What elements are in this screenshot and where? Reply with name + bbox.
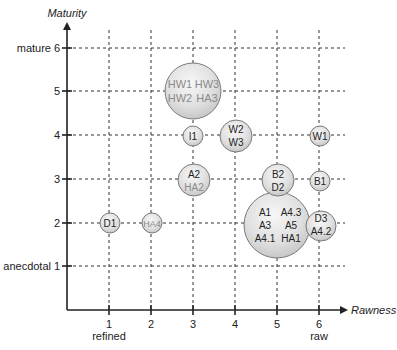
bubble-a-group: A1 A4.3 A3 A5 A4.1 HA1 bbox=[244, 192, 310, 258]
svg-text:W2: W2 bbox=[229, 124, 244, 135]
svg-text:A3: A3 bbox=[259, 220, 272, 231]
svg-text:HW3: HW3 bbox=[195, 78, 219, 90]
bubble-i1: I1 bbox=[183, 126, 203, 146]
bubble-b1: B1 bbox=[310, 171, 330, 191]
svg-text:HA4: HA4 bbox=[143, 219, 161, 229]
y-tick-2: 2 bbox=[54, 217, 60, 229]
svg-text:HA1: HA1 bbox=[281, 233, 301, 244]
svg-text:B1: B1 bbox=[314, 176, 327, 187]
svg-text:HA2: HA2 bbox=[184, 182, 204, 193]
bubble-d1: D1 bbox=[100, 213, 120, 233]
bubble-a2-ha2: A2 HA2 bbox=[178, 164, 210, 196]
y-tick-1: 1 bbox=[54, 260, 60, 272]
x-tick-2: 2 bbox=[148, 318, 154, 330]
svg-text:W3: W3 bbox=[229, 137, 244, 148]
svg-text:A4.2: A4.2 bbox=[311, 226, 332, 237]
x-axis-title: Rawness bbox=[351, 304, 397, 316]
y-label-anecdotal: anecdotal bbox=[3, 260, 51, 272]
svg-text:B2: B2 bbox=[272, 169, 285, 180]
y-label-mature: mature bbox=[17, 42, 51, 54]
svg-text:A4.1: A4.1 bbox=[255, 233, 276, 244]
x-tick-labels: 1 2 3 4 5 6 refined raw bbox=[92, 318, 328, 342]
bubble-w2-w3: W2 W3 bbox=[220, 120, 252, 152]
x-label-raw: raw bbox=[310, 330, 328, 342]
svg-text:HA3: HA3 bbox=[196, 92, 217, 104]
bubble-hw: HW1 HW3 HW2 HA3 bbox=[165, 63, 221, 119]
bubble-b2-d2: B2 D2 bbox=[262, 164, 294, 196]
svg-text:A2: A2 bbox=[188, 169, 201, 180]
svg-text:A5: A5 bbox=[285, 220, 298, 231]
svg-text:A4.3: A4.3 bbox=[281, 207, 302, 218]
bubble-ha4: HA4 bbox=[142, 213, 162, 233]
svg-text:HW1: HW1 bbox=[168, 78, 192, 90]
x-tick-6: 6 bbox=[316, 318, 322, 330]
y-tick-4: 4 bbox=[54, 129, 60, 141]
svg-text:HW2: HW2 bbox=[168, 92, 192, 104]
x-axis-arrow-icon bbox=[340, 306, 348, 314]
svg-text:D3: D3 bbox=[315, 213, 328, 224]
y-axis-title: Maturity bbox=[47, 7, 88, 19]
y-tick-labels: 6 5 4 3 2 1 mature anecdotal bbox=[3, 42, 60, 272]
y-tick-3: 3 bbox=[54, 173, 60, 185]
y-tick-6: 6 bbox=[54, 42, 60, 54]
x-label-refined: refined bbox=[92, 330, 126, 342]
bubble-d3-a4-2: D3 A4.2 bbox=[306, 211, 336, 241]
x-tick-5: 5 bbox=[274, 318, 280, 330]
svg-text:I1: I1 bbox=[189, 131, 198, 142]
svg-text:A1: A1 bbox=[259, 207, 272, 218]
svg-text:D1: D1 bbox=[104, 218, 117, 229]
x-tick-3: 3 bbox=[190, 318, 196, 330]
x-tick-4: 4 bbox=[232, 318, 238, 330]
maturity-rawness-chart: Maturity Rawness 6 5 4 3 2 1 mature anec… bbox=[0, 0, 397, 350]
bubble-w1: W1 bbox=[310, 126, 330, 146]
x-tick-1: 1 bbox=[106, 318, 112, 330]
svg-text:D2: D2 bbox=[272, 182, 285, 193]
y-axis-arrow-icon bbox=[63, 22, 71, 30]
svg-text:W1: W1 bbox=[313, 131, 328, 142]
y-tick-5: 5 bbox=[54, 85, 60, 97]
